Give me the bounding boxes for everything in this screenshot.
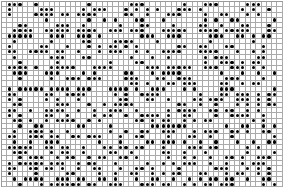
- dot-grid: [1, 1, 283, 187]
- empty-cell: [277, 182, 282, 187]
